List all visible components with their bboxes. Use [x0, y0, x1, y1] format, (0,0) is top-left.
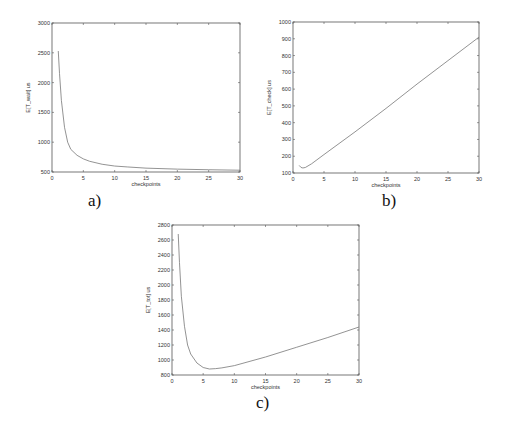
- x-tick-label: 5: [202, 378, 205, 384]
- y-tick-label: 2200: [158, 267, 170, 273]
- y-tick-label: 500: [41, 169, 50, 175]
- y-tick-label: 1600: [158, 312, 170, 318]
- x-tick-label: 30: [237, 175, 243, 181]
- caption-c: c): [256, 393, 269, 413]
- y-tick-label: 2600: [158, 237, 170, 243]
- y-tick-label: 300: [282, 136, 291, 142]
- x-tick-label: 20: [294, 378, 300, 384]
- caption-a: a): [88, 191, 101, 211]
- x-tick-label: 30: [356, 378, 362, 384]
- x-tick-label: 25: [325, 378, 331, 384]
- x-tick-label: 0: [50, 175, 53, 181]
- x-tick-label: 25: [206, 175, 212, 181]
- x-tick-label: 10: [231, 378, 237, 384]
- x-tick-label: 20: [414, 176, 420, 182]
- y-tick-label: 1400: [158, 327, 170, 333]
- y-axis-label: E[T_wait] us: [25, 82, 31, 113]
- y-tick-label: 1000: [158, 357, 170, 363]
- y-axis-label: E[T_check] us: [266, 80, 272, 115]
- chart-b: 0510152025301002003004005006007008009001…: [266, 19, 482, 188]
- y-tick-label: 800: [282, 53, 291, 59]
- data-line: [58, 51, 240, 170]
- y-tick-label: 800: [161, 372, 170, 378]
- caption-b: b): [382, 191, 396, 211]
- plot-frame: [293, 22, 479, 173]
- x-axis-label: checkpoints: [251, 384, 280, 390]
- y-tick-label: 2000: [158, 282, 170, 288]
- x-tick-label: 5: [322, 176, 325, 182]
- y-tick-label: 1800: [158, 297, 170, 303]
- y-tick-label: 600: [282, 86, 291, 92]
- y-tick-label: 1000: [279, 19, 291, 25]
- data-line: [299, 37, 479, 168]
- data-line: [178, 234, 359, 369]
- y-tick-label: 900: [282, 36, 291, 42]
- y-tick-label: 2400: [158, 252, 170, 258]
- x-tick-label: 10: [112, 175, 118, 181]
- y-axis-label: E[T_tot] us: [145, 286, 151, 313]
- plot-frame: [172, 225, 359, 375]
- y-tick-label: 1000: [38, 139, 50, 145]
- y-tick-label: 1500: [38, 109, 50, 115]
- chart-a: 05101520253050010001500200025003000check…: [25, 20, 243, 187]
- y-tick-label: 700: [282, 69, 291, 75]
- x-tick-label: 0: [170, 378, 173, 384]
- y-tick-label: 1200: [158, 342, 170, 348]
- chart-c: 0510152025308001000120014001600180020002…: [145, 222, 362, 390]
- y-tick-label: 400: [282, 120, 291, 126]
- x-tick-label: 10: [352, 176, 358, 182]
- y-tick-label: 3000: [38, 20, 50, 26]
- x-axis-label: checkpoints: [131, 181, 160, 187]
- x-tick-label: 25: [445, 176, 451, 182]
- x-tick-label: 30: [476, 176, 482, 182]
- y-tick-label: 200: [282, 153, 291, 159]
- x-tick-label: 5: [82, 175, 85, 181]
- y-tick-label: 2800: [158, 222, 170, 228]
- x-axis-label: checkpoints: [371, 182, 400, 188]
- figure: 05101520253050010001500200025003000check…: [0, 0, 506, 426]
- plot-frame: [52, 23, 240, 172]
- y-tick-label: 500: [282, 103, 291, 109]
- y-tick-label: 2500: [38, 50, 50, 56]
- y-tick-label: 2000: [38, 80, 50, 86]
- x-tick-label: 0: [291, 176, 294, 182]
- y-tick-label: 100: [282, 170, 291, 176]
- x-tick-label: 20: [174, 175, 180, 181]
